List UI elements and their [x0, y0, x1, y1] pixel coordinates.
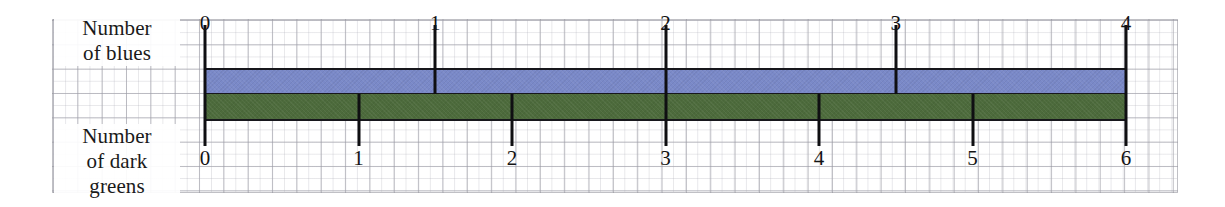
- dark-greens-tick-label-0: 0: [185, 148, 225, 169]
- axis-label-greens-line2: of dark: [54, 149, 180, 174]
- axis-label-blues-line2: of blues: [54, 41, 180, 66]
- dark-greens-tick-6: [1125, 94, 1128, 146]
- blues-tick-2: [664, 25, 667, 94]
- dark-greens-tick-label-6: 6: [1106, 148, 1146, 169]
- dark-greens-tick-label-1: 1: [339, 148, 379, 169]
- blues-tick-label-3: 3: [876, 13, 916, 34]
- dark-greens-tick-2: [511, 94, 514, 146]
- blues-tick-3: [894, 25, 897, 94]
- dark-greens-tick-4: [818, 94, 821, 146]
- axis-label-number-of-blues: Number of blues: [54, 16, 180, 66]
- blues-tick-1: [434, 25, 437, 94]
- blues-tick-label-2: 2: [646, 13, 686, 34]
- dark-greens-tick-label-4: 4: [799, 148, 839, 169]
- axis-label-greens-line1: Number: [54, 124, 180, 149]
- blues-tick-label-1: 1: [415, 13, 455, 34]
- blues-tick-0: [204, 25, 207, 94]
- dark-greens-tick-label-5: 5: [953, 148, 993, 169]
- dark-greens-tick-3: [664, 94, 667, 146]
- blues-tick-label-0: 0: [185, 13, 225, 34]
- axis-label-blues-line1: Number: [54, 16, 180, 41]
- axis-label-greens-line3: greens: [54, 174, 180, 199]
- dark-greens-tick-0: [204, 94, 207, 146]
- dark-greens-tick-5: [971, 94, 974, 146]
- blues-tick-label-4: 4: [1106, 13, 1146, 34]
- dark-greens-tick-label-2: 2: [492, 148, 532, 169]
- dark-greens-tick-label-3: 3: [646, 148, 686, 169]
- blues-tick-4: [1125, 25, 1128, 94]
- double-number-line-diagram: Number of blues Number of dark greens 01…: [0, 0, 1225, 207]
- axis-label-number-of-dark-greens: Number of dark greens: [54, 124, 180, 199]
- dark-greens-tick-1: [357, 94, 360, 146]
